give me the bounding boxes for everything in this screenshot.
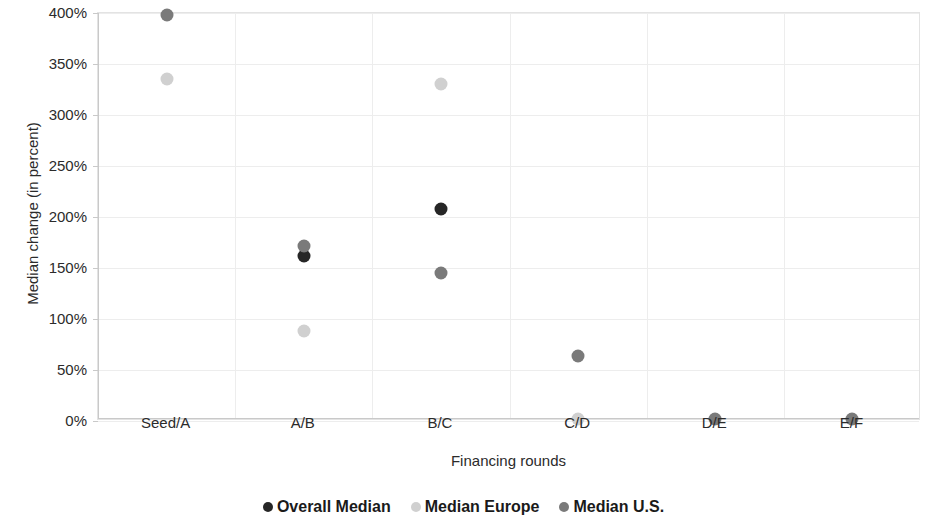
y-axis-tick-label: 350% [7,55,87,72]
y-axis-tick-label: 150% [7,259,87,276]
y-axis-tick-mark [93,64,98,65]
y-axis-tick-mark [93,319,98,320]
gridline-vertical [510,13,511,419]
gridline-horizontal [98,217,919,218]
gridline-horizontal [98,13,919,14]
x-axis-tick-label: E/F [781,414,921,431]
x-axis-tick-label: C/D [507,414,647,431]
data-point[interactable] [434,202,447,215]
y-axis-tick-mark [93,370,98,371]
data-point[interactable] [434,267,447,280]
gridline-horizontal [98,268,919,269]
data-point[interactable] [572,349,585,362]
scatter-chart: Median change (in percent) 0%50%100%150%… [0,0,927,526]
gridline-horizontal [98,166,919,167]
y-axis-tick-mark [93,115,98,116]
x-axis-tick-label: B/C [370,414,510,431]
y-axis-tick-label: 50% [7,361,87,378]
y-axis-tick-label: 0% [7,412,87,429]
data-point[interactable] [297,239,310,252]
legend-label: Median U.S. [573,498,664,516]
legend-entry[interactable]: Median Europe [411,498,540,516]
gridline-horizontal [98,64,919,65]
chart-legend: Overall MedianMedian EuropeMedian U.S. [0,498,927,516]
y-axis-tick-label: 100% [7,310,87,327]
y-axis-line [98,13,99,419]
y-axis-tick-label: 400% [7,4,87,21]
data-point[interactable] [434,78,447,91]
gridline-vertical [647,13,648,419]
gridline-vertical [372,13,373,419]
gridline-horizontal [98,319,919,320]
gridline-horizontal [98,370,919,371]
x-axis-tick-label: D/E [644,414,784,431]
legend-label: Median Europe [425,498,540,516]
x-axis-tick-label: A/B [233,414,373,431]
dot-icon [411,502,421,512]
y-axis-tick-mark [93,166,98,167]
gridline-horizontal [98,115,919,116]
y-axis-tick-mark [93,217,98,218]
data-point[interactable] [160,73,173,86]
y-axis-tick-label: 250% [7,157,87,174]
data-point[interactable] [160,9,173,22]
legend-entry[interactable]: Median U.S. [559,498,664,516]
y-axis-tick-mark [93,13,98,14]
legend-entry[interactable]: Overall Median [263,498,391,516]
dot-icon [263,502,273,512]
dot-icon [559,502,569,512]
y-axis-tick-label: 200% [7,208,87,225]
gridline-vertical [235,13,236,419]
plot-area [97,12,920,420]
gridline-vertical [784,13,785,419]
data-point[interactable] [297,325,310,338]
legend-label: Overall Median [277,498,391,516]
y-axis-tick-label: 300% [7,106,87,123]
x-axis-title: Financing rounds [97,452,920,469]
y-axis-tick-mark [93,268,98,269]
x-axis-tick-label: Seed/A [96,414,236,431]
